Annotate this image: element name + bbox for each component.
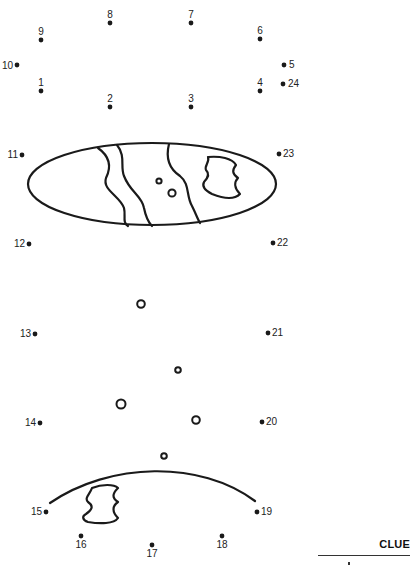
dot-marker[interactable] <box>220 534 225 539</box>
dot-point-12[interactable]: 12 <box>14 238 32 249</box>
dot-point-3[interactable]: 3 <box>188 93 194 109</box>
basket-squiggle-patch <box>83 485 118 523</box>
dot-point-17[interactable]: 17 <box>146 543 158 559</box>
dot-number-label: 16 <box>75 539 87 550</box>
numbered-dots: 123456789101112131415161718192021222324 <box>2 9 300 559</box>
dot-point-7[interactable]: 7 <box>188 9 194 25</box>
dot-marker[interactable] <box>282 63 287 68</box>
dot-number-label: 20 <box>266 416 278 427</box>
dot-point-16[interactable]: 16 <box>75 534 87 550</box>
egg-squiggle-patch <box>203 157 240 198</box>
dot-point-9[interactable]: 9 <box>38 26 44 42</box>
dot-point-1[interactable]: 1 <box>38 77 44 93</box>
clue-label: CLUE <box>340 538 410 550</box>
dot-number-label: 18 <box>216 539 228 550</box>
dot-point-23[interactable]: 23 <box>277 148 295 159</box>
dot-marker[interactable] <box>260 420 265 425</box>
dot-marker[interactable] <box>20 153 25 158</box>
bubble-circle <box>156 178 161 183</box>
dot-point-21[interactable]: 21 <box>266 327 284 338</box>
dot-marker[interactable] <box>266 331 271 336</box>
dot-marker[interactable] <box>79 534 84 539</box>
dot-marker[interactable] <box>27 242 32 247</box>
dot-number-label: 17 <box>146 548 158 559</box>
dot-marker[interactable] <box>189 21 194 26</box>
dot-number-label: 2 <box>107 93 113 104</box>
dot-marker[interactable] <box>150 543 155 548</box>
dot-number-label: 3 <box>188 93 194 104</box>
dot-point-6[interactable]: 6 <box>257 25 263 41</box>
dot-number-label: 9 <box>38 26 44 37</box>
dot-point-15[interactable]: 15 <box>31 506 49 517</box>
dot-marker[interactable] <box>15 63 20 68</box>
dot-number-label: 8 <box>107 9 113 20</box>
bubble-circle <box>117 400 126 409</box>
dot-marker[interactable] <box>33 332 38 337</box>
dot-number-label: 11 <box>8 149 19 160</box>
dot-number-label: 14 <box>25 417 37 428</box>
dot-marker[interactable] <box>281 82 286 87</box>
dot-number-label: 24 <box>288 78 300 89</box>
clue-answer-line <box>318 555 410 556</box>
egg-stripe-wave-2 <box>117 145 152 226</box>
bubble-circle <box>175 367 181 373</box>
dot-marker[interactable] <box>38 421 43 426</box>
dot-number-label: 12 <box>14 238 26 249</box>
dot-point-19[interactable]: 19 <box>255 506 273 517</box>
dot-number-label: 1 <box>38 77 44 88</box>
egg-stripe-wave-3 <box>168 144 200 223</box>
dot-number-label: 21 <box>272 327 284 338</box>
dot-point-2[interactable]: 2 <box>107 93 113 109</box>
dot-number-label: 19 <box>261 506 273 517</box>
dot-point-13[interactable]: 13 <box>20 328 38 339</box>
dot-number-label: 23 <box>283 148 295 159</box>
dot-number-label: 10 <box>2 60 14 71</box>
dot-marker[interactable] <box>258 37 263 42</box>
dot-marker[interactable] <box>39 38 44 43</box>
bubble-circle <box>192 416 200 424</box>
dot-marker[interactable] <box>108 105 113 110</box>
dot-number-label: 5 <box>289 59 295 70</box>
dot-point-24[interactable]: 24 <box>281 78 300 89</box>
dot-number-label: 22 <box>277 237 289 248</box>
dot-point-22[interactable]: 22 <box>271 237 289 248</box>
dot-marker[interactable] <box>44 510 49 515</box>
basket-arc-rim <box>50 471 255 503</box>
dot-number-label: 13 <box>20 328 32 339</box>
dot-marker[interactable] <box>277 152 282 157</box>
dot-number-label: 7 <box>188 9 194 20</box>
bubble-circle <box>168 189 175 196</box>
dot-point-14[interactable]: 14 <box>25 417 43 428</box>
dot-marker[interactable] <box>189 105 194 110</box>
bubble-circle <box>161 453 167 459</box>
egg-stripe-wave-1 <box>98 148 128 226</box>
dot-point-20[interactable]: 20 <box>260 416 278 427</box>
dot-number-label: 4 <box>257 77 263 88</box>
egg-outline-drawing <box>28 143 276 523</box>
dot-point-11[interactable]: 11 <box>8 149 25 160</box>
dot-point-18[interactable]: 18 <box>216 534 228 550</box>
bubble-circle <box>137 300 145 308</box>
dot-marker[interactable] <box>39 89 44 94</box>
dot-point-10[interactable]: 10 <box>2 60 20 71</box>
dot-point-8[interactable]: 8 <box>107 9 113 25</box>
dot-marker[interactable] <box>255 510 260 515</box>
dot-marker[interactable] <box>271 241 276 246</box>
dot-to-dot-puzzle: 123456789101112131415161718192021222324 <box>0 0 410 565</box>
dot-point-4[interactable]: 4 <box>257 77 263 93</box>
dot-marker[interactable] <box>258 89 263 94</box>
dot-marker[interactable] <box>108 21 113 26</box>
dot-number-label: 6 <box>257 25 263 36</box>
dot-number-label: 15 <box>31 506 43 517</box>
dot-point-5[interactable]: 5 <box>282 59 295 70</box>
bubble-circles <box>117 178 200 458</box>
egg-ellipse-outline <box>28 143 276 225</box>
